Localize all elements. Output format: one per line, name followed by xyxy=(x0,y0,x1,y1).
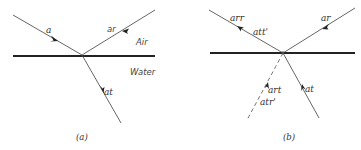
panel-caption-b: (b) xyxy=(283,132,295,142)
ray-label-at-b: at xyxy=(305,84,314,94)
ray-label-atr-prime: atr' xyxy=(260,97,276,107)
ray-label-art: art xyxy=(268,85,282,95)
medium-label-air: Air xyxy=(135,37,148,47)
ray-label-ar-b: ar xyxy=(321,13,331,23)
stokes-relations-diagram: a ar at Air Water (a) arr att' ar at art… xyxy=(0,0,361,150)
medium-label-water: Water xyxy=(130,67,156,77)
panel-caption-a: (a) xyxy=(76,132,88,142)
ray-label-att-prime: att' xyxy=(253,27,268,37)
arrow-icon xyxy=(322,24,329,30)
arrow-icon xyxy=(237,26,244,32)
ray-label-ar: ar xyxy=(107,24,116,34)
arrow-icon xyxy=(50,36,58,42)
incoming-ray-ar xyxy=(283,8,355,53)
panel-a: a ar at Air Water (a) xyxy=(13,10,156,142)
incident-ray-a xyxy=(13,15,82,55)
reflected-ray-ar xyxy=(82,10,155,55)
outgoing-ray-arr-att xyxy=(209,10,283,53)
ray-label-a: a xyxy=(46,25,51,35)
panel-b: arr att' ar at art atr' (b) xyxy=(209,8,355,142)
ray-label-arr: arr xyxy=(230,13,245,23)
ray-label-at: at xyxy=(104,87,113,97)
